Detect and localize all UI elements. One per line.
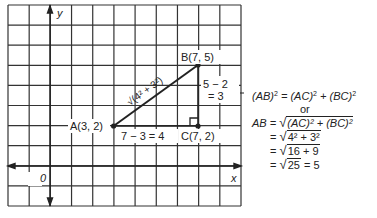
eq1-mid2: + (BC) (317, 90, 352, 102)
eq5-radicand: 16 + 9 (287, 144, 320, 157)
equation-line-4: = √4² + 3² (270, 130, 321, 144)
equation-or: or (300, 103, 310, 116)
eq1-mid: = (AC) (278, 90, 313, 102)
origin-label: 0 (40, 172, 47, 184)
eq6-radicand: 25 (287, 158, 301, 171)
equation-line-5: = √16 + 9 (270, 144, 320, 158)
x-axis-left-arrow-icon (8, 164, 15, 169)
vertical-leg-label-1: 5 − 2 (203, 78, 228, 90)
vertical-leg-label-2: = 3 (208, 90, 224, 102)
point-c-label: C(7, 2) (181, 130, 215, 142)
equation-line-3: AB = √(AC)² + (BC)² (252, 116, 353, 130)
point-a-label: A(3, 2) (70, 120, 103, 132)
y-axis-up-arrow-icon (48, 6, 53, 13)
y-axis-down-arrow-icon (48, 198, 53, 205)
point-b-label: B(7, 5) (181, 51, 214, 63)
x-axis-label: x (230, 172, 237, 184)
eq6-result: = 5 (301, 159, 320, 171)
eq1-lhs: (AB) (252, 90, 274, 102)
horizontal-leg-label: 7 − 3 = 4 (121, 130, 164, 142)
eq3-radicand: (AC)² + (BC)² (286, 116, 353, 129)
equation-line-6: = √25 = 5 (270, 158, 320, 172)
equation-line-1: (AB)2 = (AC)2 + (BC)2 (252, 90, 356, 103)
eq3-lhs: AB = (252, 117, 279, 129)
eq4-radicand: 4² + 3² (287, 130, 321, 143)
coordinate-grid-diagram: A(3, 2) B(7, 5) C(7, 2) 7 − 3 = 4 5 − 2 … (0, 0, 245, 218)
point-c (195, 123, 200, 128)
x-axis-right-arrow-icon (234, 164, 241, 169)
point-a (111, 123, 116, 128)
